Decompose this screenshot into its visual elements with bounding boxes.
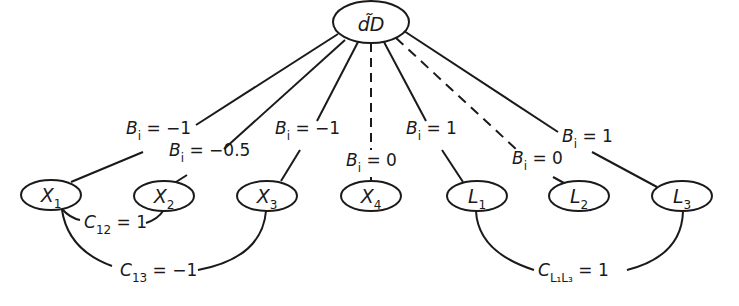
edge-label-var: B [169, 140, 181, 160]
edge-label-value: = −1 [146, 118, 191, 138]
edge-label-sub: i [418, 129, 421, 143]
edge-label-x2: Bi = −0.5 [169, 142, 250, 159]
corr-label-sub: 12 [96, 223, 111, 237]
edge-label-sub: i [358, 161, 361, 175]
edge-l2-lower [553, 177, 564, 183]
corr-label-value: = −1 [153, 260, 198, 280]
edge-label-var: B [126, 118, 138, 138]
corr-label-sub: 13 [132, 271, 147, 285]
node-l1-sub: 1 [478, 198, 486, 212]
edge-label-sub: i [287, 129, 290, 143]
node-x2-label: X2 [154, 187, 175, 206]
node-l3-base: L [673, 185, 684, 207]
corr-label-value: = 1 [117, 212, 147, 232]
edge-label-x3: Bi = −1 [275, 120, 340, 137]
edge-label-sub: i [574, 137, 577, 151]
edge-x3-upper [317, 42, 358, 121]
corr-x1-x2-right [146, 211, 163, 223]
edge-label-value: = 0 [366, 150, 396, 170]
node-l2-sub: 2 [580, 198, 588, 212]
node-x2-base: X [154, 185, 167, 207]
node-l1-label: L1 [468, 187, 486, 206]
edge-label-var: B [512, 148, 524, 168]
edge-label-sub: i [138, 129, 141, 143]
corr-label-value: = 1 [578, 260, 608, 280]
edge-label-x4: Bi = 0 [346, 152, 397, 169]
node-l2-label: L2 [570, 187, 588, 206]
edge-label-value: = 1 [426, 118, 456, 138]
corr-label-c13: C13 = −1 [120, 262, 197, 279]
node-x3-base: X [257, 185, 270, 207]
corr-label-var: C [120, 260, 132, 280]
node-x4-base: X [361, 185, 374, 207]
edge-x1-lower [71, 152, 143, 182]
corr-label-c12: C12 = 1 [84, 214, 147, 231]
edge-label-l1: Bi = 1 [406, 120, 457, 137]
corr-x1-x3-right [198, 211, 266, 270]
edge-label-value: = −0.5 [189, 140, 250, 160]
edge-label-value: = 0 [532, 148, 562, 168]
node-x4-label: X4 [361, 187, 382, 206]
node-x1-label: X1 [41, 186, 62, 205]
path-diagram: d̃D X1 X2 X3 X4 L1 L2 L3 Bi = −1 Bi = −0… [0, 0, 739, 306]
edge-label-l2: Bi = 0 [512, 150, 563, 167]
node-x4-sub: 4 [374, 198, 382, 212]
edge-x3-lower [281, 150, 300, 181]
node-l3-label: L3 [673, 187, 691, 206]
corr-label-var: C [84, 212, 96, 232]
corr-label-cl1l3: CL₁L₃ = 1 [538, 262, 609, 279]
edge-l1-upper [384, 42, 426, 121]
node-l2-base: L [570, 185, 581, 207]
node-l1-base: L [468, 185, 479, 207]
node-x2-sub: 2 [167, 198, 175, 212]
edge-label-var: B [562, 126, 574, 146]
edge-label-sub: i [524, 159, 527, 173]
node-l3-sub: 3 [683, 198, 691, 212]
edge-label-var: B [406, 118, 418, 138]
corr-label-var: C [538, 260, 550, 280]
edge-label-var: B [346, 150, 358, 170]
edge-l1-lower [442, 150, 463, 182]
edge-label-value: = −1 [295, 118, 340, 138]
edge-label-value: = 1 [582, 126, 612, 146]
corr-l1-l3-right [627, 211, 683, 270]
corr-label-sub: L₁L₃ [550, 271, 573, 285]
node-x3-label: X3 [257, 187, 278, 206]
edge-l3-lower [592, 152, 657, 187]
edge-l3-upper [404, 31, 558, 132]
node-x1-base: X [41, 184, 54, 206]
root-node-label: d̃D [358, 15, 385, 34]
edge-label-l3: Bi = 1 [562, 128, 613, 145]
edge-label-sub: i [181, 151, 184, 165]
corr-l1-l3-left [476, 211, 534, 270]
node-x1-sub: 1 [54, 197, 62, 211]
node-x3-sub: 3 [270, 198, 278, 212]
edge-label-var: B [275, 118, 287, 138]
edge-x2-lower [176, 175, 187, 182]
edge-label-x1: Bi = −1 [126, 120, 191, 137]
